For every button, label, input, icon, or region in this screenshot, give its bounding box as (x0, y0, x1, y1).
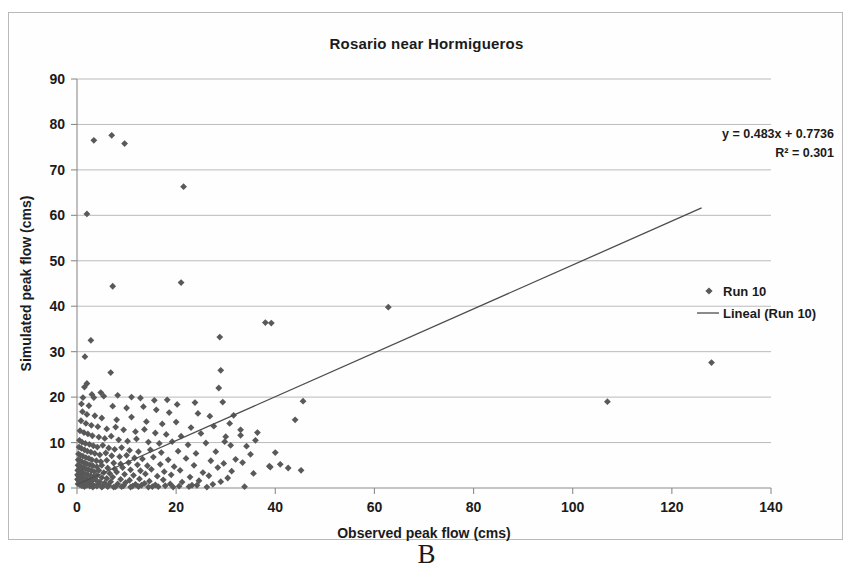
data-point (222, 433, 229, 440)
data-point (153, 406, 160, 413)
data-point (88, 422, 95, 429)
data-point (136, 476, 143, 483)
data-point (159, 421, 166, 428)
data-point (121, 140, 128, 147)
data-point (224, 475, 231, 482)
data-point (94, 423, 101, 430)
data-point (108, 433, 115, 440)
data-point (151, 397, 158, 404)
x-tick-label: 80 (466, 499, 482, 515)
data-point (152, 430, 159, 437)
x-tick-label: 60 (367, 499, 383, 515)
y-tick-label: 40 (49, 298, 65, 314)
data-point (239, 459, 246, 466)
data-point (85, 402, 92, 409)
data-point (78, 401, 85, 408)
data-point (157, 461, 164, 468)
y-tick-label: 30 (49, 344, 65, 360)
data-point (123, 405, 130, 412)
data-point (192, 399, 199, 406)
data-point (130, 472, 137, 479)
data-point (183, 455, 190, 462)
data-point (205, 472, 212, 479)
data-point (108, 132, 115, 139)
data-point (285, 465, 292, 472)
data-point (177, 467, 184, 474)
y-tick-label: 50 (49, 253, 65, 269)
data-point (173, 419, 180, 426)
y-tick-label: 80 (49, 116, 65, 132)
data-point (127, 466, 134, 473)
data-point (226, 420, 233, 427)
data-point (228, 468, 235, 475)
data-point (91, 412, 98, 419)
data-point (120, 426, 127, 433)
data-point (110, 460, 117, 467)
data-point (87, 337, 94, 344)
y-tick-label: 20 (49, 389, 65, 405)
data-point (141, 426, 148, 433)
data-point (221, 438, 228, 445)
data-point (133, 436, 140, 443)
data-point (107, 369, 114, 376)
data-point (207, 457, 214, 464)
data-point (156, 440, 163, 447)
data-point (165, 456, 172, 463)
data-point (158, 449, 165, 456)
data-points-group (74, 132, 715, 491)
legend-group: Run 10Lineal (Run 10) (697, 284, 816, 321)
data-point (132, 428, 139, 435)
data-point (109, 403, 116, 410)
data-point (247, 451, 254, 458)
data-point (268, 320, 275, 327)
data-point (209, 481, 216, 488)
regression-equation: y = 0.483x + 0.7736 (722, 127, 834, 141)
data-point (180, 183, 187, 190)
data-point (84, 211, 91, 218)
data-point (101, 435, 108, 442)
data-point (604, 398, 611, 405)
data-point (96, 451, 103, 458)
data-point (237, 426, 244, 433)
data-point (214, 464, 221, 471)
data-point (188, 424, 195, 431)
data-point (134, 461, 141, 468)
data-point (112, 424, 119, 431)
x-tick-label: 120 (660, 499, 684, 515)
figure-container: Rosario near Hormigueros 010203040506070… (0, 0, 853, 577)
data-point (212, 448, 219, 455)
data-point (160, 476, 167, 483)
data-point (708, 359, 715, 366)
y-tick-label: 10 (49, 435, 65, 451)
data-point (187, 474, 194, 481)
data-point (108, 452, 115, 459)
legend-label-trendline[interactable]: Lineal (Run 10) (723, 306, 816, 321)
data-point (241, 483, 248, 490)
data-point (113, 416, 120, 423)
data-point (90, 137, 97, 144)
data-point (200, 469, 207, 476)
x-tick-label: 140 (759, 499, 783, 515)
data-point (121, 471, 128, 478)
x-tick-label: 0 (73, 499, 81, 515)
data-point (145, 439, 152, 446)
data-point (103, 426, 110, 433)
data-point (277, 461, 284, 468)
data-point (166, 409, 173, 416)
data-point (385, 304, 392, 311)
legend-marker-diamond-icon (705, 287, 712, 294)
data-point (116, 453, 123, 460)
data-point (232, 456, 239, 463)
legend-label-series[interactable]: Run 10 (723, 284, 766, 299)
chart-frame: Rosario near Hormigueros 010203040506070… (8, 12, 843, 540)
data-point (206, 413, 213, 420)
data-point (175, 448, 182, 455)
y-tick-label: 90 (49, 71, 65, 87)
data-point (163, 431, 170, 438)
data-point (109, 283, 116, 290)
data-point (124, 438, 131, 445)
x-tick-label: 20 (168, 499, 184, 515)
data-point (174, 401, 181, 408)
r-squared-value: R² = 0.301 (775, 146, 834, 160)
x-tick-label: 100 (561, 499, 585, 515)
